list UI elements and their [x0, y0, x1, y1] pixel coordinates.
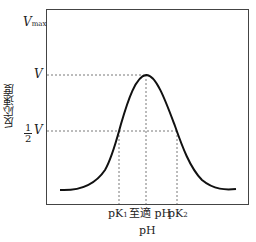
x-axis-label: pH — [139, 225, 156, 236]
plot-frame — [47, 10, 249, 205]
v-tick-label: V — [34, 69, 43, 80]
activity-curve — [60, 75, 236, 190]
half-fraction: 1 2 — [24, 123, 32, 144]
chart-canvas — [0, 0, 256, 242]
optimum-ph-tick-label: 至適 pH — [129, 208, 171, 219]
pk1-tick-label: pK1 — [108, 208, 128, 221]
vmax-tick-label: Vmax — [23, 17, 46, 30]
pk2-tick-label: pK2 — [168, 208, 188, 221]
half-v-tick-label: V — [34, 125, 43, 136]
guide-lines — [47, 75, 177, 204]
y-axis-label: 反応速度 — [2, 84, 18, 128]
